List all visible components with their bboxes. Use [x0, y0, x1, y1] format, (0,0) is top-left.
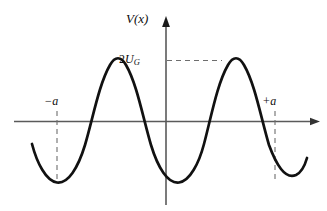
x-axis-arrowhead	[310, 118, 320, 125]
energy-level-symbol: U	[125, 52, 134, 66]
energy-level-subscript: G	[134, 57, 140, 67]
potential-curve	[32, 58, 307, 182]
left-tick-symbol: a	[52, 94, 58, 108]
figure-canvas: V(x) 2UG −a +a	[0, 0, 327, 211]
y-axis-arrowhead	[162, 16, 170, 27]
x-axis	[14, 118, 320, 125]
energy-level-label: 2UG	[119, 53, 140, 67]
right-tick-symbol: a	[270, 94, 276, 108]
y-axis-label: V(x)	[126, 12, 148, 25]
left-tick-label: −a	[45, 95, 58, 107]
right-tick-label: +a	[263, 95, 276, 107]
